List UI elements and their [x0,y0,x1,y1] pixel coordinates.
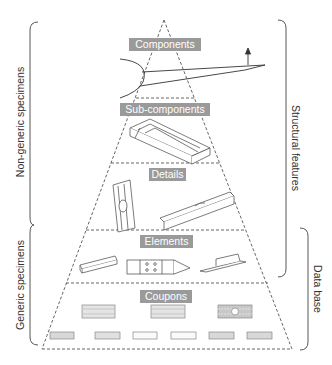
coupons-illustration [50,305,272,339]
data-base-label: Data base [312,265,324,313]
wing-illustration [120,48,265,98]
elements-illustration [80,254,246,274]
tier-label-components: Components [129,38,201,51]
structural-features-label: Structural features [290,105,302,191]
tier-label-coupons: Coupons [140,290,192,303]
non-generic-specimens-label: Non-generic specimens [14,67,26,177]
right-brace-structural [278,20,286,277]
right-brace-database [300,228,308,350]
tier-label-details: Details [149,168,186,181]
test-pyramid-diagram: Components Sub-components Details Elemen… [0,0,332,365]
tier-label-elements: Elements [140,235,193,248]
generic-specimens-label: Generic specimens [14,240,26,330]
subcomponent-illustration [130,119,210,164]
details-illustration [113,180,234,232]
left-brace [30,22,38,345]
tier-label-sub-components: Sub-components [120,103,210,116]
